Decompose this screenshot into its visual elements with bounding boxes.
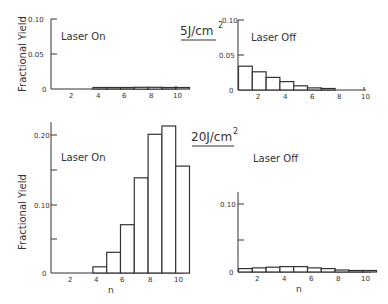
histogram-bar	[239, 66, 253, 90]
histogram-bar	[349, 271, 363, 273]
histogram-bar	[363, 271, 377, 273]
histogram-bar	[93, 267, 107, 273]
histogram-bar	[162, 88, 176, 90]
svg-text:2: 2	[255, 275, 259, 283]
histogram-bar	[252, 268, 266, 272]
svg-text:8: 8	[148, 276, 152, 284]
x-axis-label-bottom-left: n	[108, 285, 114, 295]
histogram-bar	[162, 126, 176, 273]
histogram-bar	[321, 269, 335, 272]
svg-text:6: 6	[120, 276, 125, 284]
svg-text:0.10: 0.10	[222, 17, 238, 25]
histogram-bar	[239, 269, 253, 272]
svg-text:0.10: 0.10	[28, 16, 44, 24]
histogram-bar	[148, 134, 162, 273]
svg-text:4: 4	[282, 275, 287, 283]
svg-text:0.20: 0.20	[34, 132, 50, 140]
histogram-bar	[308, 268, 322, 272]
svg-text:8: 8	[149, 92, 153, 100]
x-ticks-bottom-right: 2 4 6 8 10	[255, 275, 370, 283]
histogram-bar	[280, 82, 294, 90]
x-ticks-top-right: 2 4 6 8 10	[256, 93, 370, 101]
histogram-bar	[176, 166, 190, 273]
svg-text:10: 10	[361, 93, 370, 101]
histogram-bar	[266, 267, 280, 272]
histogram-bar	[321, 89, 335, 91]
panel-title-bottom-right: Laser Off	[253, 153, 299, 164]
histogram-bar	[294, 86, 308, 90]
histogram-bar	[266, 77, 280, 90]
svg-text:6: 6	[310, 93, 315, 101]
svg-text:0.10: 0.10	[220, 201, 236, 209]
svg-text:4: 4	[96, 92, 101, 100]
x-ticks-bottom-left: 2 4 6 8 10	[68, 276, 183, 284]
svg-text:6: 6	[309, 275, 314, 283]
panel-bottom-right	[238, 192, 377, 272]
y-axis-label-bottom: Fractional Yield	[17, 174, 28, 250]
figure-canvas: Fractional Yield Fractional Yield 5J/cm …	[0, 0, 388, 304]
svg-text:8: 8	[336, 275, 340, 283]
x-axis-label-bottom-right: n	[296, 284, 302, 294]
histogram-bar	[134, 87, 148, 89]
svg-text:20J/cm: 20J/cm	[191, 130, 232, 144]
y-axis-label-top: Fractional Yield	[17, 16, 28, 92]
histogram-bar	[335, 270, 349, 272]
svg-text:10: 10	[361, 275, 370, 283]
panel-bottom-left	[51, 122, 190, 273]
panel-title-top-left: Laser On	[61, 31, 106, 42]
fluence-label-bottom: 20J/cm 2	[191, 127, 238, 146]
fluence-label-top: 5J/cm 2	[180, 21, 223, 40]
histogram-bar	[280, 267, 294, 272]
histogram-bar	[134, 178, 148, 273]
histogram-bar	[121, 225, 135, 273]
x-ticks-top-left: 2 4 6 8 10	[69, 92, 182, 100]
svg-text:0.10: 0.10	[34, 202, 50, 210]
svg-text:0: 0	[42, 86, 46, 94]
svg-text:4: 4	[94, 276, 99, 284]
panel-top-right	[238, 20, 366, 90]
svg-text:6: 6	[122, 92, 127, 100]
panel-title-top-right: Laser Off	[251, 32, 297, 43]
svg-text:2: 2	[256, 93, 260, 101]
svg-text:5J/cm: 5J/cm	[180, 24, 214, 38]
histogram-bar	[121, 88, 135, 90]
svg-text:8: 8	[337, 93, 341, 101]
histogram-bar	[308, 88, 322, 90]
svg-text:4: 4	[283, 93, 288, 101]
histogram-bar	[148, 87, 162, 89]
histogram-bar	[294, 267, 308, 272]
panel-top-left	[51, 19, 190, 89]
svg-text:2: 2	[68, 276, 72, 284]
svg-text:10: 10	[174, 276, 183, 284]
histogram-bar	[107, 252, 121, 273]
svg-text:2: 2	[69, 92, 73, 100]
panel-title-bottom-left: Laser On	[61, 152, 106, 163]
histogram-bar	[93, 88, 107, 90]
svg-text:10: 10	[173, 92, 182, 100]
histogram-bar	[176, 88, 190, 90]
histogram-bar	[107, 88, 121, 90]
svg-text:2: 2	[233, 127, 238, 136]
svg-text:0.05: 0.05	[219, 52, 235, 60]
svg-text:0.05: 0.05	[28, 51, 44, 59]
svg-text:0: 0	[42, 270, 46, 278]
svg-text:0: 0	[229, 87, 233, 95]
histogram-bar	[252, 72, 266, 90]
svg-text:0: 0	[229, 269, 233, 277]
